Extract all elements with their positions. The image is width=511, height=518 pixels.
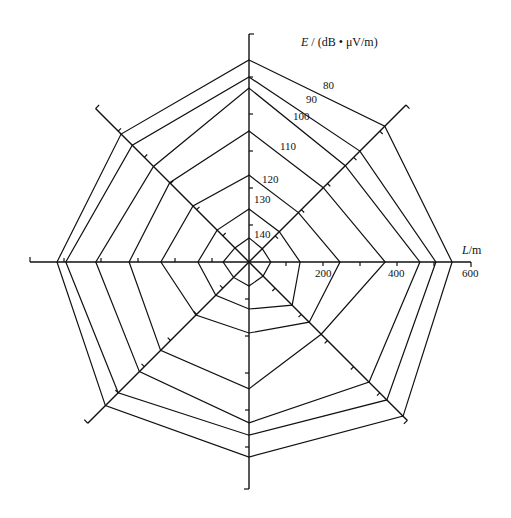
axis-tick	[380, 131, 383, 134]
contour-label-90: 90	[306, 93, 318, 105]
axis-sw	[88, 262, 249, 423]
axis-tick	[144, 155, 147, 158]
contour-label-140: 140	[254, 228, 271, 240]
axis-tick	[118, 128, 121, 131]
radar-contour-diagram: E / (dB • μV/m) L/m 200 400 600 80 90 10…	[0, 0, 511, 518]
axis-tick	[220, 285, 223, 288]
contour-label-110: 110	[280, 140, 297, 152]
contour-label-120: 120	[262, 173, 279, 185]
contour-80	[57, 60, 452, 457]
tick-label-600: 600	[462, 267, 479, 279]
axis-tick	[327, 184, 330, 187]
axis-end-cap	[406, 105, 410, 109]
axis-tick	[325, 340, 328, 343]
tick-label-400: 400	[388, 267, 405, 279]
contour-label-80: 80	[323, 79, 335, 91]
axis-end-cap	[404, 420, 408, 424]
axis-tick	[142, 364, 145, 367]
axis-tick	[275, 236, 278, 239]
axis-tick	[377, 393, 380, 396]
axis-tick	[272, 288, 275, 291]
tick-label-200: 200	[315, 267, 332, 279]
contour-polygons	[57, 60, 452, 457]
axis-tick	[351, 367, 354, 370]
e-axis-label: E / (dB • μV/m)	[300, 35, 378, 49]
axis-end-cap	[84, 420, 88, 424]
axis-tick	[301, 210, 304, 213]
axis-tick	[354, 157, 357, 160]
axis-tick	[298, 314, 301, 317]
axis-tick	[223, 233, 226, 236]
contour-label-130: 130	[254, 193, 271, 205]
contour-110	[129, 131, 385, 389]
contour-label-100: 100	[293, 110, 310, 122]
axis-end-cap	[96, 105, 100, 109]
axis-tick	[168, 338, 171, 341]
axis-tick	[197, 207, 200, 210]
l-axis-label: L/m	[461, 243, 482, 257]
